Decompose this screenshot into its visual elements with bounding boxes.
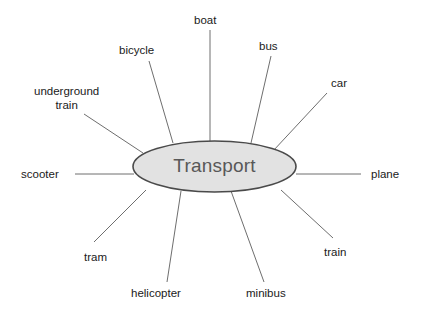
branch-label-tram[interactable]: tram xyxy=(84,250,107,264)
mind-map-diagram: Transport boatbicyclebuscarunderground t… xyxy=(0,0,421,314)
branch-label-helicopter[interactable]: helicopter xyxy=(131,286,181,300)
branch-label-bus[interactable]: bus xyxy=(259,39,278,53)
central-node-ellipse[interactable] xyxy=(133,141,296,192)
spoke-line-bus xyxy=(251,56,271,143)
mind-map-canvas xyxy=(0,0,421,314)
spoke-line-tram xyxy=(94,190,146,242)
spoke-line-minibus xyxy=(231,191,264,282)
branch-label-underground-train[interactable]: underground train xyxy=(34,84,99,113)
branch-label-car[interactable]: car xyxy=(331,76,347,90)
spoke-line-bicycle xyxy=(149,61,173,143)
branch-label-bicycle[interactable]: bicycle xyxy=(119,43,154,57)
spoke-line-underground-train xyxy=(84,114,143,153)
spoke-line-helicopter xyxy=(167,191,181,282)
branch-label-train[interactable]: train xyxy=(324,245,346,259)
branch-label-plane[interactable]: plane xyxy=(371,167,399,181)
branch-label-minibus[interactable]: minibus xyxy=(246,286,286,300)
branch-label-scooter[interactable]: scooter xyxy=(21,167,59,181)
spoke-line-car xyxy=(273,93,327,151)
branch-label-boat[interactable]: boat xyxy=(194,13,216,27)
spoke-line-train xyxy=(281,190,333,238)
